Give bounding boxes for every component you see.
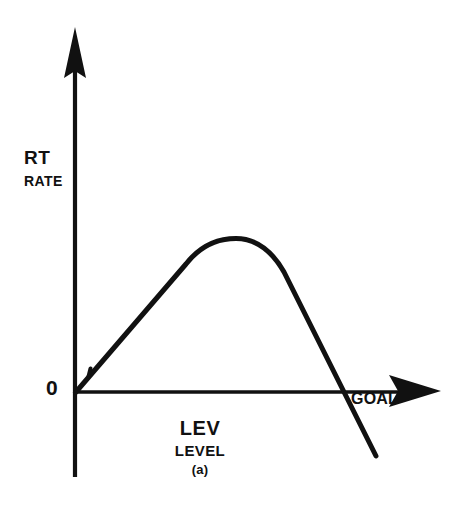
y-axis [64,27,86,477]
x-axis-label-group: LEV LEVEL (a) [120,418,280,476]
y-axis-label-group: RT RATE [24,148,63,188]
x-axis-label-primary: LEV [120,418,280,438]
y-axis-arrowhead-icon [64,27,86,78]
y-axis-label-secondary: RATE [24,174,63,188]
curve-notch-mark [89,369,91,377]
goal-endpoint-label: GOAL [351,391,398,407]
origin-zero-label: 0 [46,377,58,398]
figure-container: RT RATE 0 LEV LEVEL (a) GOAL [0,0,459,525]
x-axis-label-secondary: LEVEL [120,443,280,458]
subfigure-tag-label: (a) [120,463,280,476]
y-axis-label-primary: RT [24,148,63,167]
